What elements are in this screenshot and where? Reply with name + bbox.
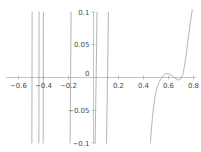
x-tick-label: −0.2 xyxy=(60,82,77,90)
x-tick-label: −0.4 xyxy=(35,82,53,90)
tick-labels: −0.6−0.4−0.20.20.40.60.8−0.1−0.050.050.1… xyxy=(10,9,199,148)
x-tick-label: 0.2 xyxy=(113,82,124,90)
curve-series xyxy=(32,10,192,143)
x-tick-label: −0.6 xyxy=(10,82,28,90)
function-plot: −0.6−0.4−0.20.20.40.60.8−0.1−0.050.050.1… xyxy=(0,0,201,152)
curve-branch xyxy=(150,10,192,143)
x-tick-label: 0.8 xyxy=(188,82,199,90)
chart-container: −0.6−0.4−0.20.20.40.60.8−0.1−0.050.050.1… xyxy=(0,0,201,152)
y-tick-label: 0.1 xyxy=(78,9,89,17)
y-tick-label: −0.1 xyxy=(73,140,90,148)
y-tick-label: 0.05 xyxy=(74,41,90,49)
axes xyxy=(6,12,196,143)
x-tick-label: 0.4 xyxy=(138,82,150,90)
x-tick-label: 0.6 xyxy=(163,82,175,90)
origin-label: 0 xyxy=(85,70,89,78)
y-tick-label: −0.05 xyxy=(68,107,89,115)
